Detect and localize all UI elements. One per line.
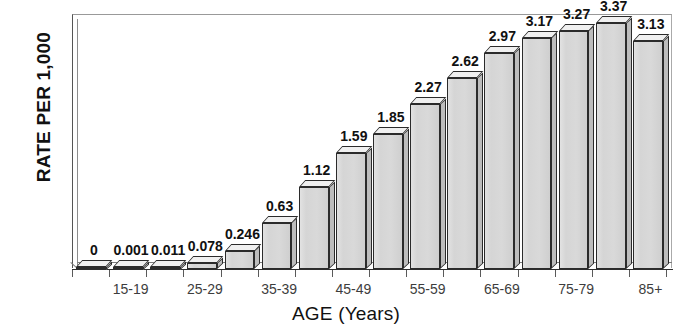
- x-tick-mark: [406, 270, 407, 277]
- x-tick-label: 85+: [615, 281, 685, 297]
- bar-front-face: [522, 38, 552, 269]
- bar-front-face: [596, 23, 626, 269]
- bar-front-face: [559, 31, 589, 269]
- x-tick-mark: [629, 270, 630, 277]
- bar: [522, 38, 552, 269]
- x-tick-label: 25-29: [170, 281, 240, 297]
- bar-front-face: [484, 53, 514, 269]
- bar-top-face: [522, 31, 558, 38]
- bar-top-face: [559, 24, 595, 31]
- bar-front-face: [225, 251, 255, 269]
- bar-front-face: [336, 153, 366, 269]
- bar-side-face: [329, 182, 335, 269]
- x-tick-mark: [518, 270, 519, 277]
- bar-side-face: [477, 73, 483, 269]
- bar: [596, 23, 626, 269]
- x-tick-mark: [443, 270, 444, 277]
- bar-side-face: [403, 129, 409, 269]
- x-tick-mark: [480, 270, 481, 277]
- x-tick-mark: [592, 270, 593, 277]
- bar-top-face: [150, 260, 186, 267]
- bar: [113, 267, 143, 270]
- x-tick-mark: [666, 270, 667, 277]
- x-tick-label: 75-79: [541, 281, 611, 297]
- bar-front-face: [373, 134, 403, 269]
- bar: [150, 267, 180, 270]
- bar-front-face: [262, 223, 292, 269]
- x-tick-mark: [295, 270, 296, 277]
- bar: [410, 104, 440, 269]
- bar-side-face: [588, 25, 594, 269]
- bar: [187, 263, 217, 269]
- x-tick-mark: [72, 270, 73, 277]
- bar-side-face: [514, 47, 520, 269]
- bar-side-face: [626, 18, 632, 269]
- x-tick-label: 45-49: [318, 281, 388, 297]
- bar-front-face: [447, 78, 477, 269]
- bar-side-face: [663, 36, 669, 269]
- bar: [299, 187, 329, 269]
- bar-front-face: [633, 41, 663, 269]
- bar: [76, 267, 106, 270]
- x-tick-label: 55-59: [393, 281, 463, 297]
- bar: [262, 223, 292, 269]
- x-tick-mark: [258, 270, 259, 277]
- bar: [559, 31, 589, 269]
- bar-front-face: [410, 104, 440, 269]
- bar-top-face: [410, 97, 446, 104]
- bar: [373, 134, 403, 269]
- x-tick-mark: [109, 270, 110, 277]
- x-tick-label: 65-69: [467, 281, 537, 297]
- x-tick-mark: [555, 270, 556, 277]
- x-tick-mark: [332, 270, 333, 277]
- bar-value-label: 3.37: [577, 0, 651, 14]
- bar-top-face: [225, 244, 261, 251]
- x-tick-label: 35-39: [244, 281, 314, 297]
- bar-side-face: [440, 98, 446, 269]
- x-tick-mark: [221, 270, 222, 277]
- bar: [225, 251, 255, 269]
- bar-value-label: 3.13: [614, 16, 688, 32]
- bar-front-face: [187, 263, 217, 269]
- bar-top-face: [76, 260, 112, 267]
- bar-chart-figure: RATE PER 1,000 00.511.522.533.5 00.0010.…: [0, 0, 692, 334]
- x-tick-mark: [369, 270, 370, 277]
- bar-front-face: [299, 187, 329, 269]
- bar-top-face: [262, 216, 298, 223]
- bar: [447, 78, 477, 269]
- x-axis-title: AGE (Years): [0, 303, 692, 325]
- bar-side-face: [291, 218, 297, 269]
- bar: [484, 53, 514, 269]
- bar: [336, 153, 366, 269]
- bar-top-face: [633, 34, 669, 41]
- bar-side-face: [366, 148, 372, 269]
- x-tick-label: 15-19: [96, 281, 166, 297]
- bar-top-face: [113, 260, 149, 267]
- x-tick-mark: [183, 270, 184, 277]
- x-tick-mark: [146, 270, 147, 277]
- bar: [633, 41, 663, 269]
- bar-side-face: [551, 33, 557, 269]
